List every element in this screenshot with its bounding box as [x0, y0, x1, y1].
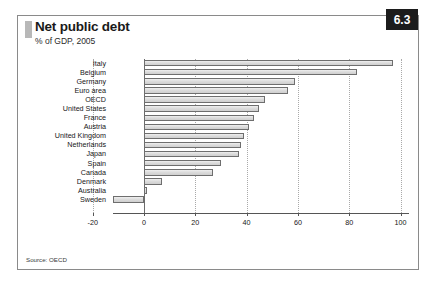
x-tick-80	[349, 213, 350, 216]
bar	[113, 196, 144, 202]
bar	[144, 105, 259, 111]
x-tick--20	[93, 213, 94, 216]
bar	[144, 87, 288, 93]
page-title: Net public debt	[35, 19, 130, 34]
bar	[144, 124, 249, 130]
bar	[144, 178, 162, 184]
category-label: Sweden	[18, 195, 106, 205]
x-tick-label: 60	[294, 218, 302, 227]
category-label: Germany	[18, 77, 106, 87]
category-label: United Kingdom	[18, 131, 106, 141]
category-label: France	[18, 113, 106, 123]
x-tick-label: 20	[191, 218, 199, 227]
category-label: United States	[18, 104, 106, 114]
bar	[144, 169, 213, 175]
bar	[144, 142, 241, 148]
x-tick-label: 80	[345, 218, 353, 227]
source-note: Source: OECD	[26, 256, 67, 263]
bar	[144, 115, 254, 121]
category-label: Denmark	[18, 177, 106, 187]
x-tick-label: 100	[395, 218, 407, 227]
bar	[144, 60, 393, 66]
x-tick-label: 40	[243, 218, 251, 227]
x-tick-label: 0	[142, 218, 146, 227]
bar	[144, 187, 147, 193]
category-label: Netherlands	[18, 140, 106, 150]
chart-plot-area: ItalyBelgiumGermanyEuro areaOECDUnited S…	[18, 58, 420, 238]
figure-panel: Net public debt % of GDP, 2005 6.3 Italy…	[17, 15, 419, 270]
x-axis-line	[113, 213, 409, 214]
x-tick-40	[247, 213, 248, 216]
category-label: Austria	[18, 122, 106, 132]
bar	[144, 69, 357, 75]
category-label: Australia	[18, 186, 106, 196]
x-tick-100	[401, 213, 402, 216]
x-tick-0	[144, 213, 145, 216]
figure-number-badge: 6.3	[386, 9, 418, 30]
bar	[144, 96, 265, 102]
chart-row: Sweden	[18, 195, 420, 204]
x-tick-label: -20	[87, 218, 97, 227]
bar	[144, 78, 295, 84]
chart-subtitle: % of GDP, 2005	[35, 36, 95, 46]
bar	[144, 160, 221, 166]
category-label: Italy	[18, 59, 106, 69]
category-label: Spain	[18, 159, 106, 169]
title-accent-mark	[25, 21, 32, 38]
category-label: OECD	[18, 95, 106, 105]
bar	[144, 151, 239, 157]
category-label: Canada	[18, 168, 106, 178]
figure-header: Net public debt % of GDP, 2005 6.3	[18, 16, 418, 58]
x-tick-20	[195, 213, 196, 216]
category-label: Belgium	[18, 68, 106, 78]
x-tick-60	[298, 213, 299, 216]
category-label: Euro area	[18, 86, 106, 96]
chart-bars: ItalyBelgiumGermanyEuro areaOECDUnited S…	[18, 59, 420, 205]
category-label: Japan	[18, 149, 106, 159]
bar	[144, 133, 244, 139]
